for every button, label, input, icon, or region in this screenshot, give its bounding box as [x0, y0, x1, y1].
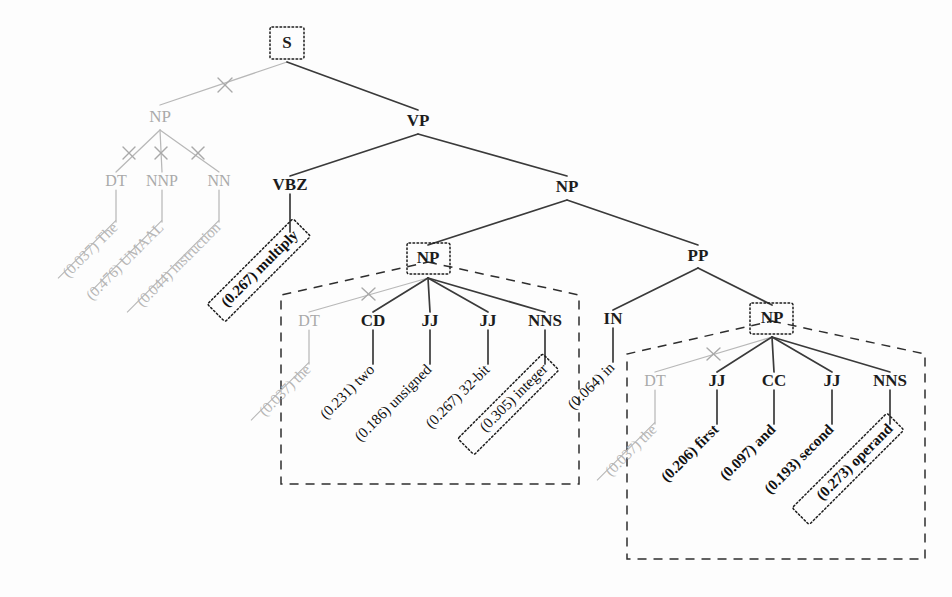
edge-pp-np-right [698, 268, 772, 305]
leaf-the-mid-strike [251, 362, 309, 420]
node-jj-right-2: JJ [824, 371, 842, 390]
edge-vp-vbz [290, 134, 418, 176]
leaf-multiply-group: (0.267) multiply [207, 219, 310, 322]
edge-np-subj-nn [160, 130, 219, 172]
node-cc-right: CC [762, 371, 787, 390]
edge-vp-np-obj [418, 134, 567, 176]
node-dt-subj: DT [105, 172, 127, 189]
edge-np-right-cc [772, 337, 774, 372]
leaf-two: (0.231) two [317, 361, 379, 423]
node-nn-subj: NN [207, 172, 231, 189]
edge-np-mid-jj2 [428, 278, 488, 312]
node-nns-right: NNS [873, 371, 907, 390]
leaf-and-group: (0.097) and [717, 421, 780, 484]
leaf-the-right: (0.037) the [602, 421, 661, 480]
node-vp: VP [407, 111, 430, 130]
parse-tree-canvas: S NP DT NNP NN VP VBZ NP NP PP IN NP DT … [0, 0, 952, 597]
parse-tree-figure: S NP DT NNP NN VP VBZ NP NP PP IN NP DT … [0, 0, 952, 597]
edge-np-subj-nnp [160, 130, 162, 172]
leaf-in-group: (0.064) in [564, 359, 618, 413]
node-vbz: VBZ [273, 175, 308, 194]
node-s: S [282, 33, 291, 52]
leaf-first-group: (0.206) first [658, 421, 722, 485]
prune-x-np-dt [123, 147, 135, 159]
node-in: IN [604, 309, 624, 328]
node-jj-mid-1: JJ [422, 311, 440, 330]
node-np-right: NP [761, 308, 784, 327]
edge-np-right-jj1 [717, 337, 772, 372]
edge-s-vp [287, 62, 418, 110]
node-jj-right-1: JJ [709, 371, 727, 390]
leaf-operand-group: (0.273) operand [792, 413, 904, 525]
edge-np-mid-jj1 [428, 278, 430, 312]
node-dt-mid: DT [298, 312, 320, 329]
leaf-instruction-group: (0.044) instruction [123, 216, 227, 320]
leaf-and: (0.097) and [717, 421, 780, 484]
edge-np-right-jj2 [772, 337, 832, 372]
node-pp: PP [688, 246, 709, 265]
node-np-obj: NP [556, 177, 579, 196]
node-dt-right: DT [644, 372, 666, 389]
prune-x-np-right-dt [707, 348, 720, 360]
node-nns-mid: NNS [528, 311, 562, 330]
node-jj-mid-2: JJ [480, 311, 498, 330]
edge-pp-in [613, 268, 698, 310]
leaf-the-mid-group: (0.037) the [247, 358, 317, 428]
leaf-the-right-group: (0.037) the [593, 418, 663, 488]
leaf-in: (0.064) in [564, 359, 618, 413]
leaf-multiply: (0.267) multiply [218, 226, 302, 310]
node-np-mid: NP [417, 248, 440, 267]
leaf-the-right-strike [597, 422, 655, 480]
edge-np-mid-dt [309, 278, 428, 312]
node-nnp-subj: NNP [146, 172, 178, 189]
leaf-two-group: (0.231) two [317, 361, 379, 423]
edge-np-obj-pp [567, 200, 698, 245]
leaf-the-mid: (0.037) the [256, 361, 315, 420]
node-cd-mid: CD [361, 311, 386, 330]
edge-np-mid-cd [373, 278, 428, 312]
node-np-subj: NP [149, 107, 171, 126]
edge-np-subj-dt [116, 130, 160, 172]
leaf-first: (0.206) first [658, 421, 722, 485]
edge-np-obj-np-mid [428, 200, 567, 245]
